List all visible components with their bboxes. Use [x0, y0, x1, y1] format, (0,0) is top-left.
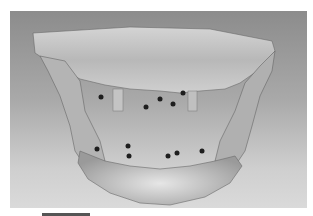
ct-render-image — [10, 11, 307, 208]
scale-bar — [42, 213, 90, 216]
skull-render — [10, 11, 307, 208]
